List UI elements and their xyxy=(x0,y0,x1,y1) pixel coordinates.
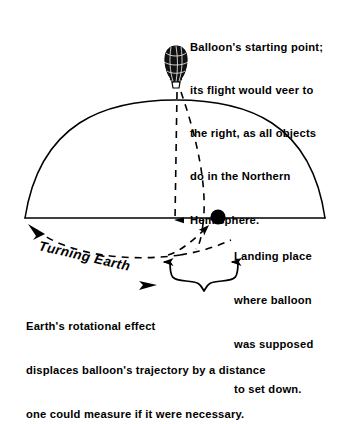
caption-line: one could measure if it were necessary. xyxy=(26,407,266,422)
caption-line: displaces balloon's trajectory by a dist… xyxy=(26,363,266,378)
turning-earth-label: Turning Earth xyxy=(37,238,131,274)
